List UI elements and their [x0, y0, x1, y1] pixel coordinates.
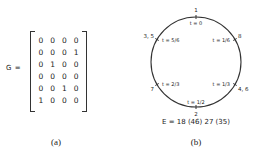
t-label: t = 0	[190, 20, 203, 26]
t-label: t = 1/3	[213, 81, 230, 87]
circle	[151, 17, 241, 107]
caption-b: (b)	[191, 137, 202, 147]
node-label: 7	[151, 86, 155, 92]
t-label: t = 5/6	[162, 37, 179, 43]
t-label: t = 1/6	[213, 37, 230, 43]
node-label: 8	[238, 33, 242, 39]
node-label: 2	[194, 111, 198, 117]
equation: E = 18 (46) 27 (35)	[162, 118, 230, 126]
node-label: 3, 5	[144, 33, 155, 39]
node-label: 1	[194, 7, 198, 13]
t-label: t = 1/2	[187, 99, 204, 105]
t-label: t = 2/3	[162, 81, 179, 87]
node-label: 4, 6	[238, 86, 249, 92]
circle-diagram: 1t = 08t = 1/64, 6t = 1/32t = 1/27t = 2/…	[0, 0, 257, 156]
